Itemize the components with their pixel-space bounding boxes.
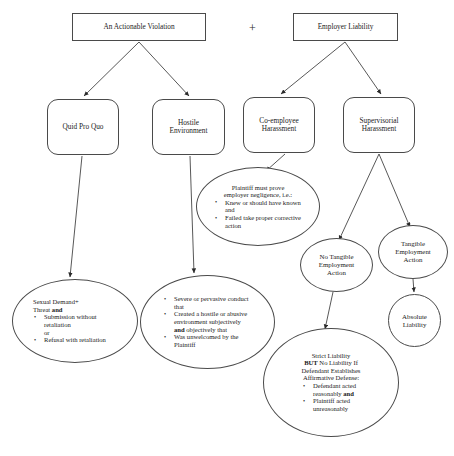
edge-supervisorial-to-notangible xyxy=(339,154,379,240)
edge-violation-to-hostile xyxy=(139,42,189,96)
node-label-line3: Action xyxy=(327,269,346,276)
strict-lead-line2: No Liability If xyxy=(318,360,358,367)
node-label: Tangible Employment Action xyxy=(379,240,447,264)
node-body: Strict Liability BUT No Liability If Def… xyxy=(264,352,398,413)
node-label: An Actionable Violation xyxy=(73,23,205,31)
sexual-demand-and-emphasis: and xyxy=(52,306,63,313)
node-employer-negligence[interactable]: Plaintiff must prove employer negligence… xyxy=(196,167,320,246)
node-label-line3: Action xyxy=(404,256,423,263)
severe-bullet2-pre: Created a hostile or abusive environment… xyxy=(174,311,247,326)
edge-violation-to-quidproquo xyxy=(84,42,139,96)
node-body: Severe or pervasive conduct that Created… xyxy=(141,295,274,348)
list-item-connector: or xyxy=(33,329,117,337)
list-item: Knew or should have known and xyxy=(214,199,302,214)
strict-lead-line3: Defendant Establishes xyxy=(302,367,361,374)
node-severe-pervasive-conduct[interactable]: Severe or pervasive conduct that Created… xyxy=(140,275,275,369)
node-label-line2: Harassment xyxy=(262,124,296,133)
edge-tangible-to-absolute xyxy=(413,279,414,292)
node-label-line1: Tangible xyxy=(401,240,425,247)
strict-lead-line1: Strict Liability xyxy=(312,352,351,359)
node-co-employee-harassment[interactable]: Co-employee Harassment xyxy=(243,97,315,153)
node-label-line2: Liability xyxy=(403,321,427,328)
node-employer-liability[interactable]: Employer Liability xyxy=(293,13,398,41)
plus-operator: + xyxy=(249,22,256,34)
list-item: Submission without retaliation xyxy=(33,313,117,328)
node-label-line2: Environment xyxy=(169,126,207,135)
list-item: Failed take proper corrective action xyxy=(214,214,302,229)
severe-and-emphasis: and xyxy=(174,326,185,333)
strict-bullet-list: Defendant acted reasonably and Plaintiff… xyxy=(302,383,378,414)
node-label-line2: Employment xyxy=(395,248,431,255)
sexual-demand-lead-line1: Sexual Demand+ xyxy=(33,298,79,305)
node-body: Sexual Demand+ Threat and Submission wit… xyxy=(13,298,137,344)
negligence-lead-line2: employer negligence, i.e.: xyxy=(224,191,292,198)
node-sexual-demand-threat[interactable]: Sexual Demand+ Threat and Submission wit… xyxy=(12,279,138,363)
node-label-line1: Absolute xyxy=(402,313,427,320)
node-label: No Tangible Employment Action xyxy=(301,253,372,277)
list-item: Refusal with retaliation xyxy=(33,336,117,344)
sexual-demand-bullet-list: Submission without retaliation or Refusa… xyxy=(33,313,117,344)
node-label: Hostile Environment xyxy=(153,119,224,136)
node-label-line2: Harassment xyxy=(362,124,396,133)
node-no-tangible-employment-action[interactable]: No Tangible Employment Action xyxy=(300,238,373,292)
node-hostile-environment[interactable]: Hostile Environment xyxy=(152,99,225,155)
edge-employer-to-coemployee xyxy=(281,42,345,94)
node-label: Supervisorial Harassment xyxy=(344,117,414,134)
list-item: Severe or pervasive conduct that xyxy=(163,295,252,310)
edge-employer-to-supervisorial xyxy=(345,42,381,94)
node-actionable-violation[interactable]: An Actionable Violation xyxy=(72,13,206,41)
edge-supervisorial-to-tangible xyxy=(379,154,410,227)
strict-and-emphasis: and xyxy=(343,390,354,397)
negligence-lead-line1: Plaintiff must prove xyxy=(232,184,285,191)
negligence-bullet-list: Knew or should have known and Failed tak… xyxy=(214,199,302,230)
sexual-demand-lead: Sexual Demand+ Threat and xyxy=(33,298,117,313)
edge-quidproquo-to-sexualdemand xyxy=(70,156,82,277)
node-body: Plaintiff must prove employer negligence… xyxy=(197,184,319,230)
strict-but-emphasis: BUT xyxy=(304,360,318,367)
strict-lead-line4: Affirmative Defense: xyxy=(303,375,359,382)
sexual-demand-lead-line2: Threat xyxy=(33,306,52,313)
node-strict-liability[interactable]: Strict Liability BUT No Liability If Def… xyxy=(263,328,399,437)
node-label: Quid Pro Quo xyxy=(48,123,118,131)
list-item: Plaintiff acted unreasonably xyxy=(302,398,378,413)
list-item: Defendant acted reasonably and xyxy=(302,383,378,398)
node-label: Absolute Liability xyxy=(389,313,440,329)
strict-lead: Strict Liability BUT No Liability If Def… xyxy=(284,352,378,383)
edge-notangible-to-strict xyxy=(325,292,333,329)
node-label: Co-employee Harassment xyxy=(244,117,314,134)
flowchart-canvas: An Actionable Violation + Employer Liabi… xyxy=(0,0,454,456)
node-label-line1: No Tangible xyxy=(319,253,353,260)
node-quid-pro-quo[interactable]: Quid Pro Quo xyxy=(47,99,119,155)
list-item: Was unwelcomed by the Plaintiff xyxy=(163,333,252,348)
node-label-line2: Employment xyxy=(319,261,355,268)
list-item: Created a hostile or abusive environment… xyxy=(163,311,252,334)
node-tangible-employment-action[interactable]: Tangible Employment Action xyxy=(378,225,448,279)
node-label: Employer Liability xyxy=(294,23,397,31)
node-supervisorial-harassment[interactable]: Supervisorial Harassment xyxy=(343,97,415,153)
severe-bullet-list: Severe or pervasive conduct that Created… xyxy=(163,295,252,348)
edge-hostile-to-severe xyxy=(190,156,194,273)
node-absolute-liability[interactable]: Absolute Liability xyxy=(388,294,441,347)
severe-bullet2-post: objectively that xyxy=(185,326,227,333)
